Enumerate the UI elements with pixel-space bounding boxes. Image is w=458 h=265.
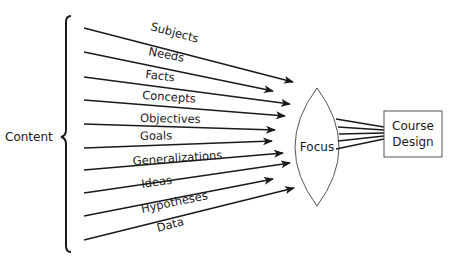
input-label: Ideas — [140, 173, 172, 191]
input-label: Data — [155, 214, 185, 235]
course-design-label-line1: Course — [392, 119, 434, 133]
input-label: Subjects — [149, 19, 200, 45]
input-label: Generalizations — [132, 148, 222, 168]
input-label: Goals — [140, 128, 172, 143]
input-label: Needs — [147, 44, 185, 65]
content-brace — [61, 16, 71, 252]
course-design-box — [384, 111, 442, 157]
focus-rays — [336, 119, 384, 149]
input-arrow — [84, 141, 272, 148]
focus-label: Focus — [300, 140, 334, 154]
focus-ray — [338, 127, 384, 130]
input-arrows — [84, 28, 294, 240]
focus-ray — [339, 133, 384, 134]
input-label: Facts — [145, 67, 176, 84]
content-label: Content — [5, 130, 53, 144]
focus-ray — [336, 119, 384, 127]
course-design-label-line2: Design — [392, 135, 433, 149]
input-label: Concepts — [142, 88, 196, 106]
focus-diagram: Content SubjectsNeedsFactsConceptsObject… — [0, 0, 458, 265]
input-label: Objectives — [140, 111, 201, 126]
